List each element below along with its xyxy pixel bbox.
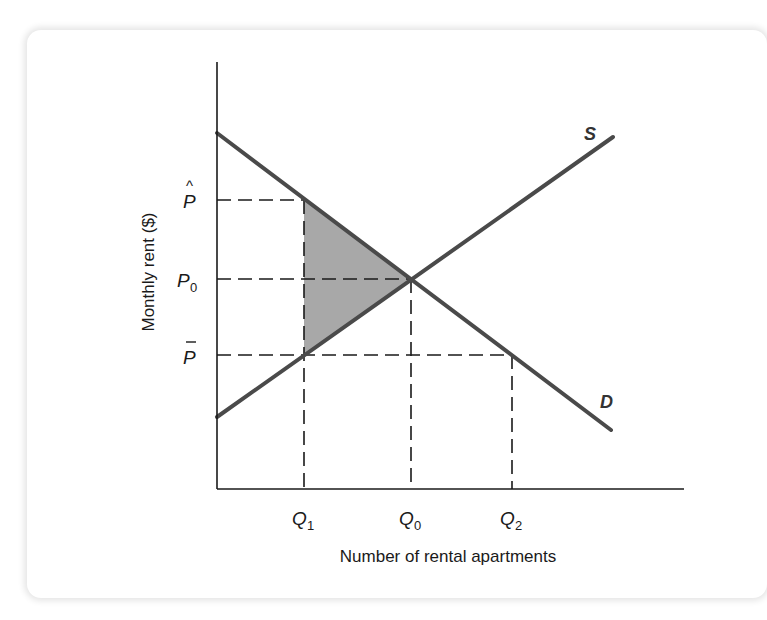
x-tick-q2: Q 2 xyxy=(500,508,522,533)
hat-accent: ^ xyxy=(186,177,193,194)
svg-text:1: 1 xyxy=(307,518,314,533)
svg-text:Q: Q xyxy=(500,508,515,529)
supply-label: S xyxy=(584,124,596,144)
x-tick-q1: Q 1 xyxy=(292,508,314,533)
y-axis-title: Monthly rent ($) xyxy=(139,212,158,331)
svg-text:0: 0 xyxy=(414,518,421,533)
y-tick-p-hat: P ^ xyxy=(183,177,196,212)
deadweight-loss-area xyxy=(304,200,411,355)
y-tick-p0: P 0 xyxy=(177,270,197,295)
x-tick-q0: Q 0 xyxy=(399,508,421,533)
svg-text:P: P xyxy=(183,347,196,368)
demand-curve xyxy=(217,133,611,430)
svg-text:Q: Q xyxy=(292,508,307,529)
svg-text:0: 0 xyxy=(190,280,197,295)
svg-text:P: P xyxy=(183,191,196,212)
demand-label: D xyxy=(600,392,613,412)
svg-text:P: P xyxy=(177,270,190,291)
svg-text:Q: Q xyxy=(399,508,414,529)
svg-text:2: 2 xyxy=(515,518,522,533)
x-axis-title: Number of rental apartments xyxy=(340,547,556,566)
y-tick-p-bar: P xyxy=(183,342,196,368)
